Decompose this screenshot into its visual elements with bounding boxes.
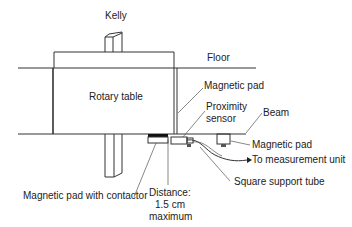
label-to-measurement-unit: To measurement unit	[252, 154, 346, 165]
label-magnetic-pad-with-contactor: Magnetic pad with contactor	[23, 190, 148, 201]
label-sensor: sensor	[206, 113, 237, 124]
label-kelly: Kelly	[105, 10, 127, 21]
leader-proximity-sensor	[183, 111, 205, 137]
label-distance: Distance:	[149, 187, 191, 198]
magnetic-pad-with-contactor	[148, 134, 168, 143]
magnetic-pad-right	[217, 134, 230, 147]
label-proximity: Proximity	[206, 101, 247, 112]
label-magnetic-pad-top: Magnetic pad	[204, 80, 264, 91]
kelly-upper	[105, 32, 122, 52]
label-beam: Beam	[263, 107, 289, 118]
label-distance-max: maximum	[149, 211, 192, 222]
leader-magnetic-pad-right	[231, 141, 250, 145]
leader-magnetic-pad-top	[178, 88, 203, 113]
label-rotary-table: Rotary table	[89, 91, 143, 102]
label-square-support-tube: Square support tube	[234, 176, 325, 187]
kelly-lower	[105, 134, 122, 177]
label-magnetic-pad-right: Magnetic pad	[252, 139, 312, 150]
rotary-table-diagram: Kelly Floor Rotary table Magnetic pad Pr…	[0, 0, 352, 227]
proximity-sensor	[171, 137, 193, 147]
label-floor: Floor	[207, 52, 230, 63]
leader-beam	[246, 113, 262, 133]
label-distance-value: 1.5 cm	[155, 199, 185, 210]
